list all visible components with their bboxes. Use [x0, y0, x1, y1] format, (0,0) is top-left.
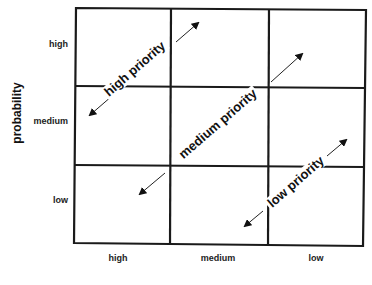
grid-divider-v1: [170, 9, 171, 244]
grid-divider-v2: [268, 9, 269, 245]
priority-matrix-diagram: probability high medium low high medium …: [0, 0, 372, 285]
